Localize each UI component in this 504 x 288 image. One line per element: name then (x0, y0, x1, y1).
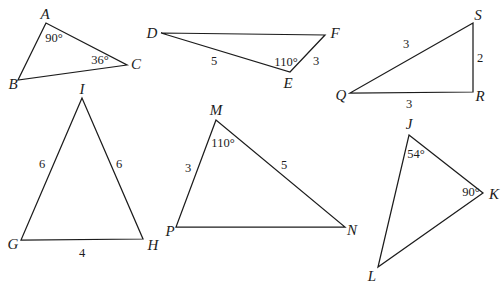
vertex-label-A: A (39, 6, 50, 22)
angle-label-jkl-0: 54° (407, 147, 425, 161)
angle-label-abc-1: 36° (91, 53, 109, 67)
vertex-label-Q: Q (336, 87, 347, 103)
vertex-label-B: B (8, 76, 17, 92)
vertex-label-J: J (406, 116, 414, 132)
vertex-label-R: R (474, 88, 484, 104)
side-label-qrs-0: 3 (403, 37, 409, 51)
side-label-ghi-0: 6 (39, 157, 45, 171)
side-label-mpn-1: 3 (185, 161, 191, 175)
vertex-label-D: D (146, 25, 158, 41)
triangle-qrs-outline (350, 23, 473, 93)
vertex-label-H: H (147, 237, 160, 253)
triangle-mpn-outline (176, 120, 345, 227)
angle-label-mpn-0: 110° (211, 136, 234, 150)
side-label-qrs-1: 2 (477, 51, 483, 65)
vertex-label-G: G (8, 236, 19, 252)
triangle-def-outline (161, 33, 325, 72)
triangle-jkl-outline (378, 135, 483, 267)
triangles-canvas: ABC90°36°DFE5110°3SQR323IGH664MPN110°35J… (0, 0, 504, 288)
side-label-def-0: 5 (211, 54, 217, 68)
vertex-label-M: M (209, 102, 224, 118)
vertex-label-C: C (131, 56, 142, 72)
side-label-mpn-2: 5 (281, 158, 287, 172)
vertex-label-N: N (346, 222, 358, 238)
vertex-label-E: E (282, 75, 292, 91)
vertex-label-S: S (474, 7, 482, 23)
geometry-figure: ABC90°36°DFE5110°3SQR323IGH664MPN110°35J… (0, 0, 504, 288)
vertex-label-P: P (164, 223, 174, 239)
angle-label-abc-0: 90° (45, 31, 63, 45)
side-label-ghi-1: 6 (116, 157, 122, 171)
triangle-abc-outline (18, 23, 127, 80)
vertex-label-K: K (488, 186, 500, 202)
side-label-ghi-2: 4 (79, 246, 86, 260)
vertex-label-L: L (367, 268, 376, 284)
side-label-qrs-2: 3 (406, 97, 412, 111)
vertex-label-I: I (79, 81, 86, 97)
side-label-def-2: 3 (313, 54, 319, 68)
vertex-label-F: F (329, 25, 340, 41)
angle-label-jkl-1: 90° (462, 185, 480, 199)
angle-label-def-1: 110° (274, 55, 297, 69)
